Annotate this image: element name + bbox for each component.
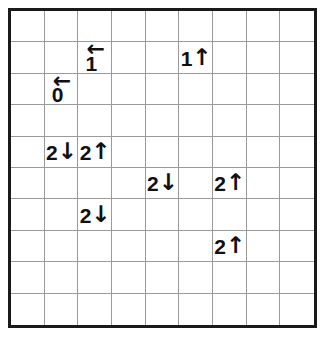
grid-cell-c1-r3[interactable] [11, 74, 45, 105]
grid-cell-c2-r1[interactable] [45, 11, 79, 42]
grid-cell-c2-r6[interactable] [45, 168, 79, 199]
clue-c2-r3[interactable]: ←0 [45, 74, 79, 105]
grid-cell-c5-r8[interactable] [146, 231, 180, 262]
grid-cell-c8-r10[interactable] [247, 294, 281, 325]
clue-c7-r6[interactable]: 2↑ [213, 168, 247, 199]
grid-cell-c9-r1[interactable] [280, 11, 314, 42]
clue-number: 1 [85, 54, 97, 74]
grid-cell-c3-r8[interactable] [78, 231, 112, 262]
grid-cell-c3-r6[interactable] [78, 168, 112, 199]
grid-cell-c5-r9[interactable] [146, 262, 180, 293]
grid-cell-c4-r2[interactable] [112, 42, 146, 73]
grid-cell-c8-r8[interactable] [247, 231, 281, 262]
grid-cell-c1-r10[interactable] [11, 294, 45, 325]
clue-c6-r2[interactable]: 1↑ [179, 42, 213, 73]
grid-cell-c7-r4[interactable] [213, 105, 247, 136]
grid-cell-c9-r9[interactable] [280, 262, 314, 293]
grid-cell-c9-r6[interactable] [280, 168, 314, 199]
clue-number: 2 [80, 205, 92, 226]
grid-cell-c1-r2[interactable] [11, 42, 45, 73]
grid-cell-c9-r8[interactable] [280, 231, 314, 262]
grid-cell-c8-r3[interactable] [247, 74, 281, 105]
grid-cell-c4-r10[interactable] [112, 294, 146, 325]
grid-cell-c1-r4[interactable] [11, 105, 45, 136]
grid-cell-c3-r10[interactable] [78, 294, 112, 325]
grid-cell-c5-r10[interactable] [146, 294, 180, 325]
grid-cell-c9-r4[interactable] [280, 105, 314, 136]
clue-number: 2 [147, 173, 159, 194]
clue-c3-r5[interactable]: 2↑ [78, 137, 112, 168]
grid-cell-c6-r3[interactable] [179, 74, 213, 105]
grid-cell-c5-r5[interactable] [146, 137, 180, 168]
arrow-up-icon: ↑ [91, 140, 110, 163]
grid-cell-c5-r2[interactable] [146, 42, 180, 73]
grid-cell-c6-r4[interactable] [179, 105, 213, 136]
grid-cell-c7-r1[interactable] [213, 11, 247, 42]
grid-cell-c2-r7[interactable] [45, 199, 79, 230]
grid-cell-c8-r7[interactable] [247, 199, 281, 230]
grid-cell-c5-r4[interactable] [146, 105, 180, 136]
grid-cell-c9-r7[interactable] [280, 199, 314, 230]
grid-cell-c6-r5[interactable] [179, 137, 213, 168]
grid-cell-c6-r9[interactable] [179, 262, 213, 293]
grid-cell-c8-r5[interactable] [247, 137, 281, 168]
clue-number: 0 [52, 85, 64, 105]
grid-cell-c1-r6[interactable] [11, 168, 45, 199]
clue-c5-r6[interactable]: 2↓ [146, 168, 180, 199]
grid-cell-c1-r9[interactable] [11, 262, 45, 293]
grid-cell-c6-r1[interactable] [179, 11, 213, 42]
grid-cell-c7-r9[interactable] [213, 262, 247, 293]
grid-cell-c2-r4[interactable] [45, 105, 79, 136]
grid-cell-c2-r8[interactable] [45, 231, 79, 262]
grid-cell-c9-r2[interactable] [280, 42, 314, 73]
clue-number: 2 [214, 173, 226, 194]
grid-cell-c4-r8[interactable] [112, 231, 146, 262]
grid-cell-c2-r10[interactable] [45, 294, 79, 325]
grid-cell-c8-r9[interactable] [247, 262, 281, 293]
grid-cell-c7-r5[interactable] [213, 137, 247, 168]
grid-cell-c5-r7[interactable] [146, 199, 180, 230]
grid-cell-c1-r1[interactable] [11, 11, 45, 42]
grid-cell-c9-r10[interactable] [280, 294, 314, 325]
grid-cell-c4-r4[interactable] [112, 105, 146, 136]
grid-cell-c3-r9[interactable] [78, 262, 112, 293]
clue-c3-r7[interactable]: 2↓ [78, 199, 112, 230]
clue-c2-r5[interactable]: 2↓ [45, 137, 79, 168]
puzzle-grid: ←1←01↑2↓2↑2↓2↑2↓2↑ [8, 8, 317, 328]
grid-cell-c4-r3[interactable] [112, 74, 146, 105]
clue-number: 2 [214, 236, 226, 257]
grid-cell-c1-r5[interactable] [11, 137, 45, 168]
grid-cell-c6-r10[interactable] [179, 294, 213, 325]
grid-cell-c9-r5[interactable] [280, 137, 314, 168]
grid-cell-c5-r1[interactable] [146, 11, 180, 42]
grid-cell-c8-r6[interactable] [247, 168, 281, 199]
grid-cell-c7-r10[interactable] [213, 294, 247, 325]
grid-cell-c4-r1[interactable] [112, 11, 146, 42]
grid-cell-c4-r7[interactable] [112, 199, 146, 230]
arrow-down-icon: ↓ [91, 203, 110, 226]
grid-cell-c7-r3[interactable] [213, 74, 247, 105]
arrow-down-icon: ↓ [58, 140, 77, 163]
clue-c3-r2[interactable]: ←1 [78, 42, 112, 73]
grid-cell-c8-r4[interactable] [247, 105, 281, 136]
grid-cell-c8-r2[interactable] [247, 42, 281, 73]
grid-cell-c6-r8[interactable] [179, 231, 213, 262]
grid-cell-c4-r9[interactable] [112, 262, 146, 293]
clue-c7-r8[interactable]: 2↑ [213, 231, 247, 262]
arrow-down-icon: ↓ [159, 171, 178, 194]
grid-cell-c7-r7[interactable] [213, 199, 247, 230]
arrow-up-icon: ↑ [226, 234, 245, 257]
grid-cell-c3-r3[interactable] [78, 74, 112, 105]
grid-cell-c6-r6[interactable] [179, 168, 213, 199]
grid-cell-c4-r6[interactable] [112, 168, 146, 199]
grid-cell-c9-r3[interactable] [280, 74, 314, 105]
grid-cell-c2-r9[interactable] [45, 262, 79, 293]
grid-cell-c8-r1[interactable] [247, 11, 281, 42]
grid-cell-c4-r5[interactable] [112, 137, 146, 168]
grid-cell-c5-r3[interactable] [146, 74, 180, 105]
grid-cell-c1-r8[interactable] [11, 231, 45, 262]
grid-cell-c7-r2[interactable] [213, 42, 247, 73]
grid-cell-c1-r7[interactable] [11, 199, 45, 230]
grid-cell-c6-r7[interactable] [179, 199, 213, 230]
grid-cell-c3-r4[interactable] [78, 105, 112, 136]
